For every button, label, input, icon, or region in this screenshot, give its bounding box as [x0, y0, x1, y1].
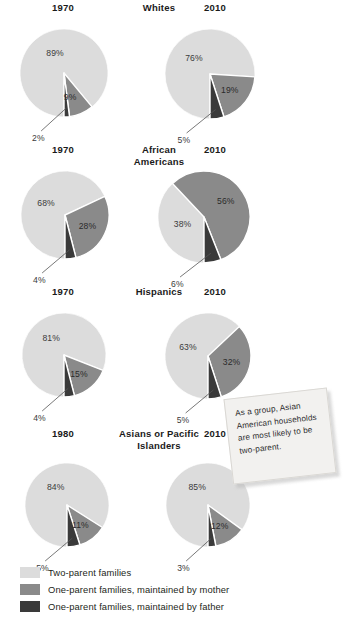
year-label-left: 1970 [38, 144, 88, 156]
pie-chart-whites-1970: 89%9%2% [17, 26, 111, 120]
pie-row: 68%28%4% 38%56%6% [0, 168, 343, 286]
group-header: 1970 Hispanics 2010 [0, 284, 343, 310]
pie-slice-label: 85% [188, 482, 206, 492]
pie-slice-label: 63% [179, 342, 197, 352]
group-header: 1970 Whites 2010 [0, 0, 343, 26]
year-label-right: 2010 [190, 286, 240, 298]
pie-slice-label: 4% [33, 413, 46, 423]
note-text: As a group, Asian American households ar… [235, 398, 326, 457]
pie-chart-hispanics-2010: 63%32%5% [162, 310, 254, 402]
year-label-right: 2010 [190, 144, 240, 156]
group-whites: 1970 Whites 2010 89%9%2% 76%19%5% [0, 0, 343, 144]
legend-label: One-parent families, maintained by fathe… [48, 601, 224, 612]
pie-graphic [17, 26, 111, 120]
pie-graphic [155, 168, 253, 266]
year-label-left: 1970 [38, 2, 88, 14]
pie-chart-hispanics-1970: 81%15%4% [19, 310, 109, 400]
legend-swatch-mother [20, 584, 40, 595]
pie-chart-whites-2010: 76%19%5% [162, 26, 258, 122]
pie-chart-african-americans-2010: 38%56%6% [155, 168, 253, 266]
legend-item-mother: One-parent families, maintained by mothe… [20, 581, 330, 598]
pie-slice-label: 15% [70, 369, 88, 379]
pie-slice-label: 32% [223, 357, 241, 367]
group-african-americans: 1970 African Americans 2010 68%28%4% 38%… [0, 142, 343, 286]
pie-graphic [22, 460, 112, 550]
legend: Two-parent families One-parent families,… [20, 564, 330, 615]
pie-slice-label: 89% [46, 48, 64, 58]
callout-note: As a group, Asian American households ar… [223, 387, 336, 484]
pie-slice-label: 81% [42, 333, 60, 343]
note-body: As a group, Asian American households ar… [223, 387, 336, 484]
pie-slice-label: 38% [174, 219, 192, 229]
group-header: 1970 African Americans 2010 [0, 142, 343, 168]
legend-label: One-parent families, maintained by mothe… [48, 584, 229, 595]
pie-slice-label: 84% [47, 482, 65, 492]
year-label-left: 1980 [38, 428, 88, 440]
pie-graphic [19, 310, 109, 400]
legend-label: Two-parent families [48, 567, 131, 578]
legend-swatch-two-parent [20, 567, 40, 578]
pie-slice-label: 19% [221, 85, 239, 95]
pie-slice-label: 56% [217, 196, 235, 206]
year-label-left: 1970 [38, 286, 88, 298]
pie-slice-label: 11% [72, 520, 89, 530]
pie-chart-african-americans-1970: 68%28%4% [18, 168, 112, 262]
pie-graphic [18, 168, 112, 262]
pie-slice-label: 28% [79, 221, 97, 231]
pie-slice-label: 9% [64, 92, 77, 102]
pie-slice-label: 12% [211, 521, 229, 531]
pie-chart-asians-1980: 84%11%5% [22, 460, 112, 550]
family-structure-infographic: 1970 Whites 2010 89%9%2% 76%19%5% 1970 A… [0, 0, 343, 620]
legend-item-father: One-parent families, maintained by fathe… [20, 598, 330, 615]
legend-swatch-father [20, 601, 40, 612]
pie-slice-label: 68% [37, 198, 55, 208]
pie-slice-label: 5% [177, 415, 190, 425]
pie-graphic [162, 26, 258, 122]
pie-slice-label: 76% [185, 53, 203, 63]
legend-item-two-parent: Two-parent families [20, 564, 330, 581]
pie-row: 89%9%2% 76%19%5% [0, 26, 343, 144]
year-label-right: 2010 [190, 2, 240, 14]
